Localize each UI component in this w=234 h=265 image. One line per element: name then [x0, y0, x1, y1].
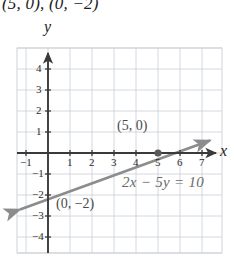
y-tick-3: 3 [36, 83, 42, 95]
y-tick-neg1: −1 [32, 167, 44, 179]
coordinate-plane [0, 22, 234, 265]
x-tick-6: 6 [177, 156, 183, 168]
y-tick-neg2: −2 [32, 188, 44, 200]
y-tick-1: 1 [36, 125, 42, 137]
x-tick-3: 3 [111, 156, 117, 168]
answer-text: (5, 0), (0, −2) [2, 0, 99, 14]
x-tick-7: 7 [199, 156, 205, 168]
y-tick-2: 2 [36, 104, 42, 116]
x-axis-label: x [220, 142, 227, 160]
y-tick-4: 4 [36, 62, 42, 74]
point-label-5-0: (5, 0) [117, 118, 147, 134]
x-tick-5: 5 [155, 156, 161, 168]
y-tick-neg3: −3 [32, 209, 44, 221]
y-tick-neg4: −4 [32, 230, 44, 242]
equation-label: 2x − 5y = 10 [122, 174, 204, 191]
x-tick-1: 1 [67, 156, 73, 168]
x-tick-neg1: −1 [20, 156, 32, 168]
x-tick-2: 2 [89, 156, 95, 168]
graph-figure: y x −1 1 2 3 4 5 6 7 4 3 2 1 −1 −2 −3 −4… [0, 22, 234, 265]
x-tick-4: 4 [133, 156, 139, 168]
point-label-0-neg2: (0, −2) [56, 196, 94, 212]
y-axis-label: y [44, 18, 51, 36]
